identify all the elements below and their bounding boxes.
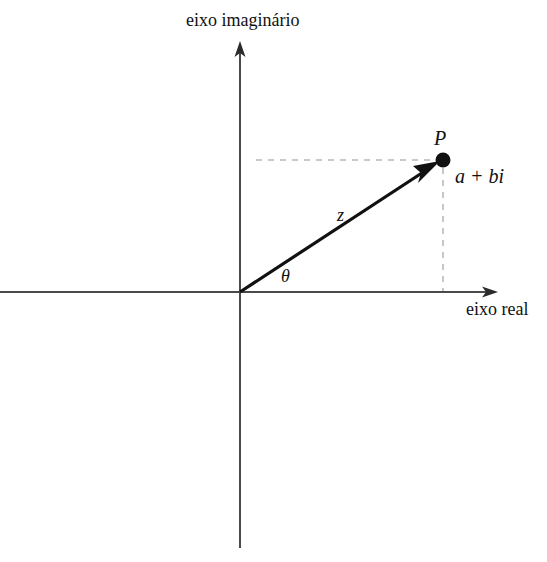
point-p-label: P	[434, 128, 446, 148]
complex-plane-diagram: eixo imaginário eixo real P a + bi z θ	[0, 0, 547, 562]
point-p-marker	[436, 153, 451, 168]
vector-z	[240, 161, 440, 292]
imaginary-axis-label: eixo imaginário	[186, 11, 299, 29]
imaginary-axis	[235, 41, 246, 548]
diagram-canvas	[0, 0, 547, 562]
angle-theta-label: θ	[281, 267, 290, 285]
vector-z-label: z	[337, 206, 344, 224]
real-axis-label: eixo real	[466, 300, 528, 318]
vector-z-arrowhead	[413, 161, 440, 183]
vector-z-line	[240, 169, 428, 292]
point-value-label: a + bi	[455, 166, 504, 186]
real-axis	[0, 287, 498, 298]
